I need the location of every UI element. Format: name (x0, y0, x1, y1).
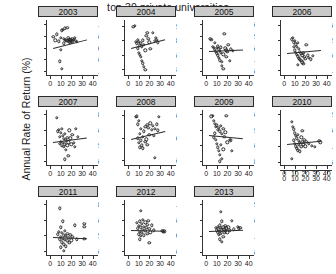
y-tick-mark (200, 48, 203, 49)
x-tick-mark (217, 166, 218, 169)
y-tick-mark (44, 48, 47, 49)
data-point (151, 31, 154, 34)
x-tick-mark (93, 76, 94, 79)
y-tick-mark (44, 59, 47, 60)
y-tick-mark (278, 70, 281, 71)
data-point (220, 60, 223, 63)
y-tick-mark (122, 55, 125, 56)
x-tick-mark (149, 76, 150, 79)
data-point (71, 133, 74, 136)
data-point (70, 239, 73, 242)
x-tick-mark (82, 256, 83, 259)
x-tick-mark (149, 166, 150, 169)
plot-area-2005: .25.2.15.1.05010203040 (180, 20, 258, 89)
data-point (230, 219, 233, 222)
x-tick-label: 10 (213, 260, 221, 267)
data-point (62, 249, 65, 252)
plot-inner-2006 (281, 20, 332, 75)
x-tick-label: 20 (146, 170, 154, 177)
data-point (313, 145, 316, 148)
x-tick-label: 0 (204, 170, 208, 177)
plot-2006 (280, 20, 332, 75)
x-tick-label: 20 (224, 260, 232, 267)
plot-2012 (124, 200, 176, 255)
panel-header-2012: 2012 (116, 186, 176, 197)
plot-2004 (124, 20, 176, 75)
data-point (65, 26, 68, 29)
y-tick-mark (122, 138, 125, 139)
data-point (68, 129, 71, 132)
data-point (290, 157, 293, 160)
plot-2013 (202, 200, 254, 255)
data-point (229, 139, 232, 142)
panel-header-2005: 2005 (194, 6, 254, 17)
y-tick-mark (44, 161, 47, 162)
panel-header-2006: 2006 (272, 6, 332, 17)
data-point (219, 143, 222, 146)
y-tick-mark (200, 220, 203, 221)
x-axis: 010203040 (202, 165, 254, 167)
plot-2011 (46, 200, 98, 255)
data-point (227, 43, 230, 46)
data-point (220, 240, 223, 243)
data-point (221, 235, 224, 238)
x-tick-label: 10 (57, 80, 65, 87)
y-tick-mark (44, 204, 47, 205)
x-tick-label: 0 (48, 170, 52, 177)
data-point (136, 122, 139, 125)
x-tick-label: 0 (126, 80, 130, 87)
y-tick-mark (200, 130, 203, 131)
data-point (138, 237, 141, 240)
data-point (296, 63, 299, 66)
y-tick-mark (200, 204, 203, 205)
x-tick-label: 0 (126, 170, 130, 177)
data-point (67, 154, 70, 157)
x-tick-label: 40 (89, 80, 97, 87)
x-tick-label: 30 (78, 170, 86, 177)
data-point (73, 145, 76, 148)
x-tick-mark (82, 166, 83, 169)
x-tick-mark (305, 171, 306, 174)
y-tick-mark (278, 130, 281, 131)
x-tick-label: 40 (245, 170, 253, 177)
x-tick-mark (284, 76, 285, 79)
x-tick-mark (327, 76, 328, 79)
x-tick-label: 0 (282, 175, 286, 182)
x-tick-label: 10 (135, 80, 143, 87)
y-tick-mark (122, 160, 125, 161)
data-point (153, 156, 156, 159)
y-tick-mark (278, 55, 281, 56)
data-point (55, 116, 58, 119)
data-point (141, 146, 144, 149)
x-tick-mark (227, 166, 228, 169)
y-tick-mark (278, 162, 281, 163)
x-tick-label: 10 (135, 170, 143, 177)
x-tick-mark (139, 76, 140, 79)
x-tick-mark (249, 166, 250, 169)
plot-area-2009: -.15-.2-.25-.3010203040 (180, 110, 258, 179)
x-tick-mark (50, 166, 51, 169)
data-point (223, 32, 226, 35)
y-tick-mark (44, 145, 47, 146)
x-axis: 010203040 (46, 165, 98, 167)
x-tick-label: 20 (224, 80, 232, 87)
y-tick-mark (44, 71, 47, 72)
panel-header-2004: 2004 (116, 6, 176, 17)
data-point (137, 119, 140, 122)
x-tick-mark (171, 76, 172, 79)
x-axis: 010203040 (46, 75, 98, 77)
y-tick-mark (278, 25, 281, 26)
x-tick-label: 20 (68, 260, 76, 267)
data-point (219, 46, 222, 49)
y-tick-mark (200, 36, 203, 37)
y-tick-mark (278, 114, 281, 115)
data-point (221, 67, 224, 70)
plot-2003 (46, 20, 98, 75)
x-tick-mark (305, 76, 306, 79)
data-point (65, 144, 68, 147)
plot-area-2010: .2.15.1.05010203040 (258, 110, 336, 179)
data-point (146, 31, 149, 34)
data-point (292, 128, 295, 131)
y-tick-mark (278, 146, 281, 147)
x-tick-label: 40 (323, 80, 331, 87)
